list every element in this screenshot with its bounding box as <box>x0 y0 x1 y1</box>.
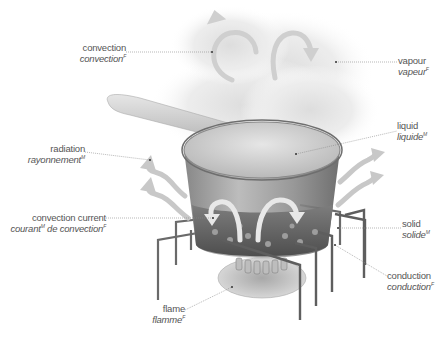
label-solid: solid solideM <box>402 218 446 240</box>
label-vapour: vapour vapeurF <box>398 55 446 77</box>
radiation-arrows-right <box>338 148 385 205</box>
label-convection: convection convectionF <box>60 42 126 64</box>
label-flame: flame flammeF <box>140 303 185 325</box>
label-liquid: liquid liquideM <box>397 120 446 142</box>
heat-transfer-diagram: convection convectionF vapour vapeurF ra… <box>0 0 446 339</box>
label-conduction: conduction conductionF <box>387 270 446 292</box>
label-radiation: radiation rayonnementM <box>10 143 85 165</box>
burner <box>218 258 306 298</box>
radiation-arrows-left <box>140 155 188 218</box>
label-convection-current: convection current courantM de convectio… <box>0 212 106 234</box>
liquid-surface <box>184 122 340 178</box>
